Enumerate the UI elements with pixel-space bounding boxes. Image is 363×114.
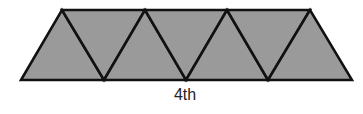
figure-label: 4th <box>0 86 363 104</box>
triangles-group <box>21 10 352 80</box>
